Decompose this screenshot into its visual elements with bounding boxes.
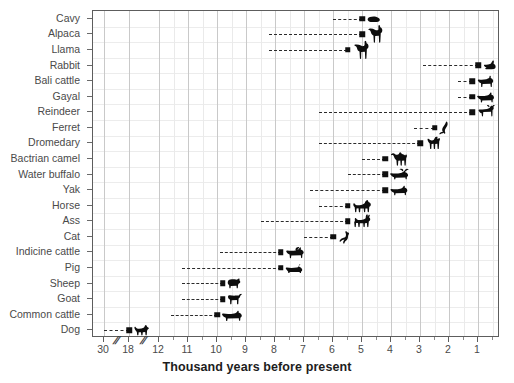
- y-axis-tick: [87, 174, 92, 175]
- pig-silhouette: [285, 263, 303, 273]
- bali-cattle-silhouette: [476, 75, 494, 87]
- horse-silhouette: [352, 199, 371, 212]
- y-axis-label-alpaca: Alpaca: [48, 28, 80, 39]
- domestication-timeline-chart: CavyAlpacaLlamaRabbitBali cattleGayalRei…: [0, 0, 514, 383]
- y-axis-tick: [87, 251, 92, 252]
- data-row-rabbit: [93, 58, 498, 74]
- data-row-dromedary: [93, 136, 498, 152]
- x-axis-tick-label: 4: [387, 343, 393, 355]
- data-point-marker: [469, 94, 475, 100]
- x-axis-tick-minor: [260, 337, 261, 340]
- y-axis-tick: [87, 65, 92, 66]
- x-axis-tick-major: [390, 337, 391, 342]
- data-row-cavy: [93, 11, 498, 27]
- data-point-marker: [382, 172, 388, 178]
- data-row-bactrian-camel: [93, 151, 498, 167]
- x-axis-tick-major: [332, 337, 333, 342]
- rabbit-silhouette: [482, 60, 497, 70]
- data-row-goat: [93, 291, 498, 307]
- x-axis-tick-major: [187, 337, 188, 342]
- x-axis-tick-label: 18: [122, 343, 134, 355]
- x-axis-tick-label: 10: [210, 343, 222, 355]
- x-axis-tick-label: 9: [242, 343, 248, 355]
- x-axis-tick-major: [477, 337, 478, 342]
- plot-area: [92, 10, 499, 337]
- data-point-marker: [469, 78, 475, 84]
- x-axis-tick-minor: [434, 337, 435, 340]
- y-axis-tick: [87, 298, 92, 299]
- range-dashed-line: [182, 268, 281, 269]
- y-axis-tick: [87, 205, 92, 206]
- x-axis-tick-major: [103, 337, 104, 342]
- y-axis-label-horse: Horse: [52, 199, 80, 210]
- x-axis-tick-label: 12: [152, 343, 164, 355]
- data-point-marker: [214, 312, 220, 318]
- llama-silhouette: [352, 40, 369, 59]
- y-axis-tick: [87, 236, 92, 237]
- common-cattle-silhouette: [221, 309, 243, 321]
- data-point-marker: [220, 281, 226, 287]
- x-axis-tick-major: [448, 337, 449, 342]
- x-axis-tick-label: 8: [271, 343, 277, 355]
- y-axis-label-ass: Ass: [62, 215, 80, 226]
- data-point-marker: [330, 234, 336, 240]
- x-axis-tick-minor: [231, 337, 232, 340]
- y-axis-tick: [87, 18, 92, 19]
- reindeer-silhouette: [476, 105, 496, 119]
- y-axis-label-dromedary: Dromedary: [28, 137, 80, 148]
- range-dashed-line: [261, 221, 348, 222]
- x-axis-tick-minor: [347, 337, 348, 340]
- data-row-gayal: [93, 89, 498, 105]
- data-point-marker: [126, 327, 132, 333]
- data-point-marker: [345, 203, 351, 209]
- data-row-sheep: [93, 276, 498, 292]
- x-axis-tick-minor: [173, 337, 174, 340]
- x-axis-tick-major: [216, 337, 217, 342]
- bactrian-camel-silhouette: [389, 152, 409, 166]
- data-row-yak: [93, 182, 498, 198]
- y-axis-label-reindeer: Reindeer: [37, 106, 80, 117]
- x-axis-tick-label: 7: [300, 343, 306, 355]
- x-axis-tick-minor: [492, 337, 493, 340]
- y-axis-tick: [87, 189, 92, 190]
- data-point-marker: [359, 16, 365, 22]
- y-axis-tick: [87, 314, 92, 315]
- data-point-marker: [382, 156, 388, 162]
- y-axis-tick: [87, 158, 92, 159]
- ferret-silhouette: [439, 121, 450, 135]
- data-row-water-buffalo: [93, 167, 498, 183]
- data-point-marker: [345, 47, 351, 53]
- sheep-silhouette: [227, 278, 242, 289]
- dromedary-silhouette: [424, 137, 442, 150]
- y-axis-tick: [87, 80, 92, 81]
- cat-silhouette: [337, 230, 349, 243]
- x-axis-tick-label: 2: [445, 343, 451, 355]
- x-axis-tick-major: [419, 337, 420, 342]
- y-axis-label-cat: Cat: [64, 230, 80, 241]
- data-point-marker: [475, 63, 481, 69]
- y-axis-label-llama: Llama: [51, 43, 80, 54]
- data-row-pig: [93, 260, 498, 276]
- x-axis-tick-major: [303, 337, 304, 342]
- x-axis-title: Thousand years before present: [0, 360, 514, 374]
- data-row-horse: [93, 198, 498, 214]
- x-axis-tick-minor: [289, 337, 290, 340]
- y-axis-label-dog: Dog: [61, 324, 80, 335]
- range-dashed-line: [304, 237, 333, 238]
- data-row-ferret: [93, 120, 498, 136]
- data-row-alpaca: [93, 27, 498, 43]
- range-dashed-line: [182, 299, 223, 300]
- y-axis-tick: [87, 267, 92, 268]
- x-axis-tick-major: [128, 337, 129, 342]
- range-dashed-line: [269, 50, 347, 51]
- range-dashed-line: [348, 174, 386, 175]
- y-axis-tick: [87, 220, 92, 221]
- indicine-cattle-silhouette: [285, 246, 305, 259]
- x-axis-tick-minor: [405, 337, 406, 340]
- range-dashed-line: [319, 206, 348, 207]
- water-buffalo-silhouette: [389, 169, 409, 180]
- x-axis-tick-minor: [463, 337, 464, 340]
- data-row-dog: [93, 322, 498, 338]
- x-axis-tick-major: [274, 337, 275, 342]
- x-axis-tick-minor: [318, 337, 319, 340]
